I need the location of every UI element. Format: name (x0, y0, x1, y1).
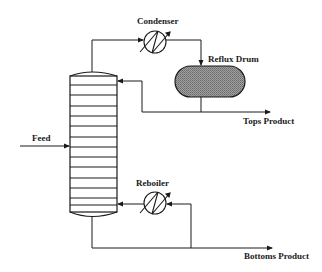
column-shell (70, 76, 117, 212)
reflux-line (118, 81, 142, 112)
column-bottom-cap (70, 212, 117, 217)
distillation-column (70, 72, 117, 217)
condenser-icon (140, 31, 170, 53)
bottoms-product-label: Bottoms Product (244, 251, 309, 261)
reflux-drum-label: Reflux Drum (208, 54, 259, 64)
distillation-diagram: Condenser Reflux Drum Tops Product Feed … (0, 0, 322, 272)
condenser-label: Condenser (137, 16, 179, 26)
tops-product-label: Tops Product (243, 116, 294, 126)
feed-label: Feed (32, 133, 51, 143)
reboiler-label: Reboiler (136, 178, 169, 188)
overhead-vapor-line (92, 40, 143, 72)
bottoms-product-line (92, 217, 272, 248)
column-trays (70, 85, 117, 205)
reboiler-icon (140, 192, 170, 214)
reboiler-feed-line (167, 204, 191, 248)
condensate-line (166, 40, 201, 65)
reflux-drum (175, 66, 245, 97)
